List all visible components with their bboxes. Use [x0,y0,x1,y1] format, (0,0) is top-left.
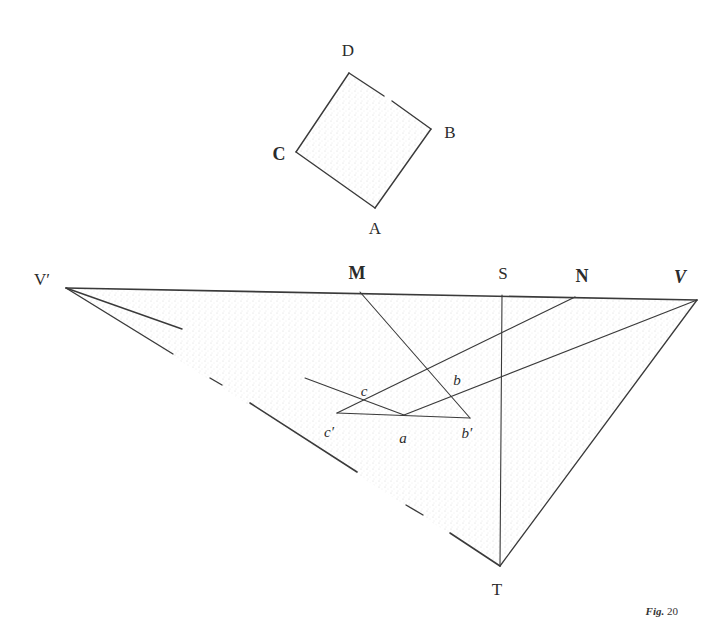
figure-caption: Fig. 20 [646,605,678,617]
label-m: M [349,264,366,282]
label-t: T [492,581,502,598]
label-b-prime: b′ [462,426,473,441]
label-b: B [444,124,455,141]
caption-number: 20 [667,605,678,617]
label-b-small: b [453,373,461,388]
square-fill [296,73,431,208]
perspective-diagram: D B A C V′ M S N V T c b c′ a b′ Fig. 20 [0,0,719,640]
label-a: A [369,220,381,237]
label-v-prime: V′ [34,271,50,288]
label-c: C [273,145,286,163]
caption-prefix: Fig. [646,605,665,617]
label-d: D [342,42,354,59]
label-c-small: c [361,384,368,399]
label-v: V [674,268,686,286]
label-a-small: a [399,431,407,446]
label-c-prime: c′ [324,425,334,440]
diagram-canvas [0,0,719,640]
label-s: S [498,265,507,282]
label-n: N [576,267,589,285]
